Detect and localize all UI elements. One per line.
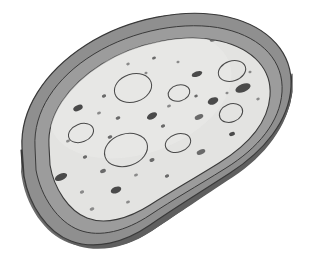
illustration-canvas [0,0,310,277]
bean-slab-illustration [0,0,310,277]
